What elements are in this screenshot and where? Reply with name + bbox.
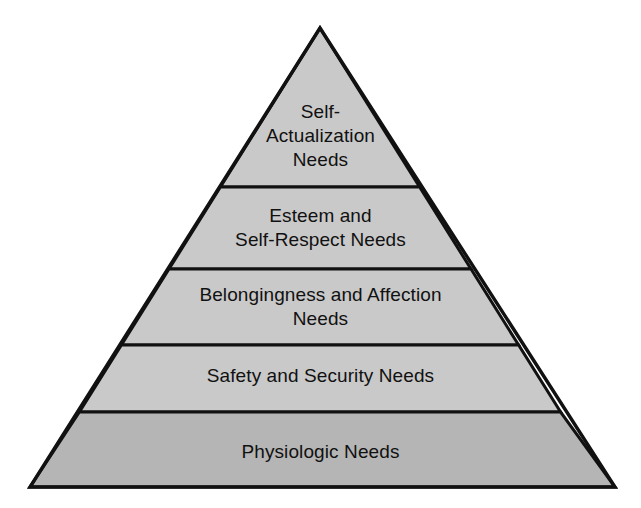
pyramid-diagram: Self- Actualization Needs Esteem and Sel… xyxy=(0,0,641,508)
tier-4-shape[interactable] xyxy=(79,345,560,412)
pyramid-shape xyxy=(0,0,641,508)
tier-3-shape[interactable] xyxy=(121,269,518,345)
tier-2-shape[interactable] xyxy=(169,187,471,269)
tier-5-shape[interactable] xyxy=(30,412,615,487)
tier-1-shape[interactable] xyxy=(220,28,419,187)
